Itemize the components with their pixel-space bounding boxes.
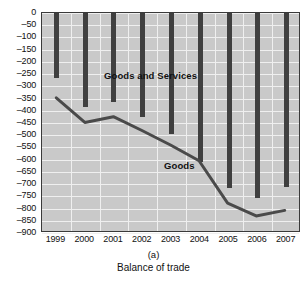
x-axis-tick-label: 2003 [161, 234, 180, 244]
y-axis-tick-label: –750 [17, 190, 36, 200]
y-axis-tick-label: –400 [17, 105, 36, 115]
y-axis-tick-label: –550 [17, 141, 36, 151]
caption-title: Balance of trade [0, 261, 307, 274]
x-axis-tick-label: 2000 [75, 234, 94, 244]
x-axis-tick-label: 2002 [132, 234, 151, 244]
series-label-goods-and-services: Goods and Services [104, 70, 197, 81]
y-axis-tick-label: –350 [17, 93, 36, 103]
y-axis-tick-label: –500 [17, 129, 36, 139]
y-axis-tick-label: –650 [17, 166, 36, 176]
x-axis-tick-label: 1999 [46, 234, 65, 244]
x-axis-tick-label: 2006 [247, 234, 266, 244]
x-axis-tick-label: 2007 [276, 234, 295, 244]
y-axis-tick-label: –100 [17, 31, 36, 41]
y-axis-tick-label: –200 [17, 56, 36, 66]
plot-area: Goods and Services Goods [41, 12, 300, 232]
x-axis-tick-label: 2004 [190, 234, 209, 244]
y-axis-tick-label: –50 [22, 19, 36, 29]
y-axis-tick-label: 0 [31, 7, 36, 17]
y-axis-tick-label: –800 [17, 203, 36, 213]
series-annotations: Goods and Services Goods [42, 13, 299, 231]
y-axis-tick-label: –850 [17, 215, 36, 225]
y-axis-tick-label: –450 [17, 117, 36, 127]
series-label-goods: Goods [164, 160, 195, 171]
y-axis-tick-label: –600 [17, 154, 36, 164]
x-axis-tick-label: 2001 [103, 234, 122, 244]
balance-of-trade-figure: 0–50–100–150–200–250–300–350–400–450–500… [0, 0, 307, 282]
y-axis-tick-label: –900 [17, 227, 36, 237]
y-axis-tick-label: –250 [17, 68, 36, 78]
y-axis-tick-label: –150 [17, 44, 36, 54]
caption-panel-letter: (a) [0, 249, 307, 261]
y-axis: 0–50–100–150–200–250–300–350–400–450–500… [0, 12, 39, 232]
x-axis-tick-label: 2005 [218, 234, 237, 244]
y-axis-tick-label: –700 [17, 178, 36, 188]
x-axis: 199920002001200220032004200520062007 [41, 234, 300, 248]
y-axis-tick-label: –300 [17, 80, 36, 90]
caption: (a) Balance of trade [0, 249, 307, 274]
